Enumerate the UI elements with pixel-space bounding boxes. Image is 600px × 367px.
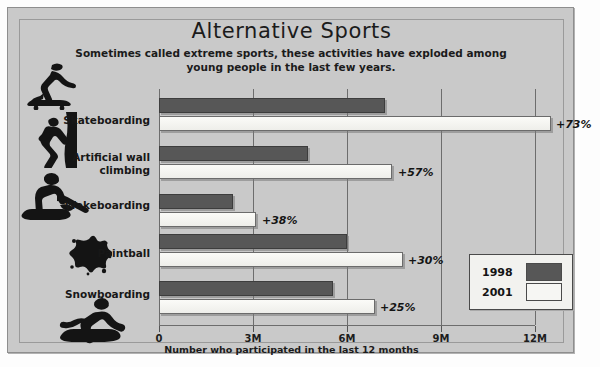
bar-wakeboarding-2001 <box>159 212 256 227</box>
category-label-line1: Snowboarding <box>22 288 150 301</box>
category-label-line1: Wakeboarding <box>30 199 150 212</box>
bar-snowboarding-2001 <box>159 299 375 314</box>
legend-swatch-2001 <box>526 283 562 301</box>
chart-panel: Alternative Sports Sometimes called extr… <box>7 7 574 353</box>
legend-label-2001: 2001 <box>482 286 513 299</box>
tick-label-12m: 12M <box>523 333 547 344</box>
bar-paintball-2001 <box>159 252 403 267</box>
pct-label-wakeboarding: +38% <box>262 214 298 227</box>
chart-title: Alternative Sports <box>8 19 575 43</box>
chart-legend: 1998 2001 <box>469 254 573 310</box>
bar-wakeboarding-1998 <box>159 194 233 209</box>
bar-paintball-1998 <box>159 234 347 249</box>
chart-subtitle: Sometimes called extreme sports, these a… <box>60 46 522 74</box>
bar-skateboarding-2001 <box>159 116 551 131</box>
tick-3m <box>253 326 254 332</box>
legend-swatch-1998 <box>526 263 562 281</box>
tick-label-3m: 3M <box>245 333 262 344</box>
category-label-line1: Paintball <box>30 247 150 260</box>
bar-skateboarding-1998 <box>159 98 385 113</box>
pct-label-wall-climbing: +57% <box>398 166 434 179</box>
x-axis-title: Number who participated in the last 12 m… <box>8 344 575 355</box>
category-label-wakeboarding: Wakeboarding <box>30 199 150 212</box>
tick-0 <box>159 326 160 332</box>
category-label-skateboarding: Skateboarding <box>30 114 150 127</box>
category-label-line1: Artificial wall <box>30 151 150 164</box>
tick-label-0: 0 <box>156 333 163 344</box>
chart-image: Alternative Sports Sometimes called extr… <box>0 0 600 367</box>
snowboarder-icon <box>56 296 126 348</box>
category-label-wall-climbing: Artificial wall climbing <box>30 151 150 176</box>
pct-label-snowboarding: +25% <box>380 301 416 314</box>
bar-wall-climbing-2001 <box>159 164 392 179</box>
tick-label-6m: 6M <box>339 333 356 344</box>
tick-label-9m: 9M <box>433 333 450 344</box>
pct-label-paintball: +30% <box>408 254 444 267</box>
skateboarder-icon <box>22 62 80 110</box>
bar-snowboarding-1998 <box>159 281 333 296</box>
category-label-line2: climbing <box>30 164 150 177</box>
tick-9m <box>441 326 442 332</box>
category-label-snowboarding: Snowboarding <box>22 288 150 301</box>
category-label-paintball: Paintball <box>30 247 150 260</box>
pct-label-skateboarding: +73% <box>556 118 592 131</box>
bar-wall-climbing-1998 <box>159 146 308 161</box>
tick-12m <box>535 326 536 332</box>
legend-label-1998: 1998 <box>482 266 513 279</box>
tick-6m <box>347 326 348 332</box>
category-label-line1: Skateboarding <box>30 114 150 127</box>
